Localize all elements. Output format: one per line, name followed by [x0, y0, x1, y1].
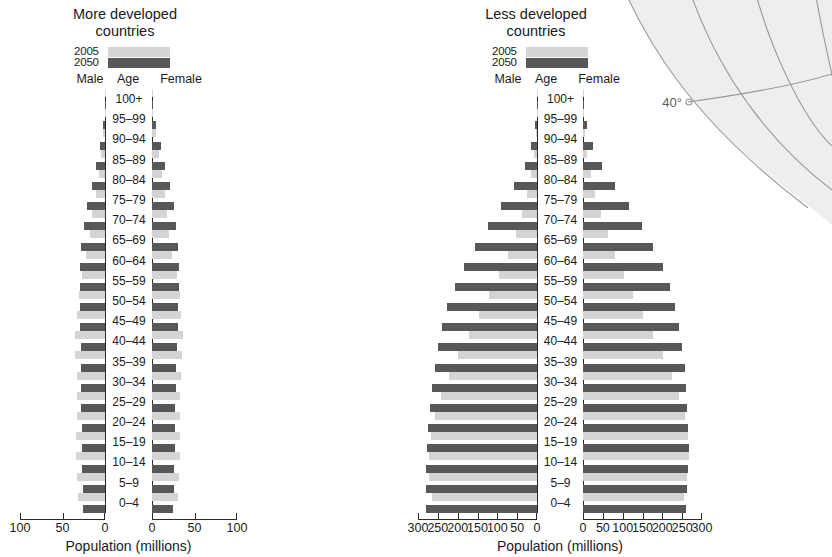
x-axis-tick-label: 200	[652, 521, 673, 535]
pyramid-age-row: 10–14	[418, 452, 832, 472]
bar-female-2050	[152, 101, 153, 109]
female-bars	[583, 452, 832, 472]
x-axis-tick-label: 50	[188, 521, 202, 535]
bar-female-2005	[152, 190, 165, 198]
male-bars	[418, 271, 537, 291]
bar-male-2005	[79, 291, 105, 299]
bar-male-2050	[475, 243, 537, 251]
x-axis-tick-label: 300	[692, 521, 713, 535]
bar-male-2005	[516, 230, 537, 238]
bar-female-2050	[152, 323, 178, 331]
x-axis-tick	[497, 513, 498, 520]
x-axis-tick-label: 50	[510, 521, 524, 535]
bar-male-2050	[488, 222, 537, 230]
pyramid-age-row: 55–59	[0, 271, 250, 291]
bar-female-2005	[152, 473, 179, 481]
bar-female-2050	[152, 465, 174, 473]
age-group-label: 5–9	[538, 473, 583, 493]
bar-male-2005	[77, 372, 105, 380]
bar-male-2050	[103, 121, 105, 129]
pyramid-age-row: 70–74	[418, 210, 832, 230]
column-headers-more-developed: Male Age Female	[0, 72, 250, 89]
bar-female-2050	[152, 404, 175, 412]
male-bars	[0, 311, 105, 331]
female-bars	[152, 150, 250, 170]
bar-female-2005	[583, 392, 679, 400]
pyramid-age-row: 30–34	[0, 372, 250, 392]
bar-female-2005	[152, 210, 167, 218]
male-bars	[418, 432, 537, 452]
bar-male-2050	[96, 162, 105, 170]
female-bars	[583, 432, 832, 452]
pyramid-age-row: 65–69	[418, 230, 832, 250]
female-bars	[152, 392, 250, 412]
bar-female-2005	[583, 150, 587, 158]
x-axis-tick-label: 0	[534, 521, 541, 535]
pyramid-age-row: 5–9	[0, 473, 250, 493]
bar-female-2005	[583, 170, 591, 178]
bar-female-2050	[583, 444, 689, 452]
female-bars	[152, 412, 250, 432]
bar-female-2005	[583, 351, 663, 359]
female-bars	[583, 190, 832, 210]
bar-female-2005	[583, 331, 653, 339]
bar-female-2050	[583, 505, 686, 513]
age-group-label: 0–4	[538, 493, 583, 513]
male-bars	[0, 291, 105, 311]
male-bars	[418, 311, 537, 331]
bar-female-2005	[583, 251, 615, 259]
female-bars	[583, 251, 832, 271]
bar-female-2050	[583, 243, 653, 251]
female-bars	[583, 210, 832, 230]
x-axis-tick	[438, 513, 439, 520]
bar-female-2005	[583, 412, 685, 420]
bar-female-2050	[583, 222, 642, 230]
legend-more-developed: 2005 2050	[0, 46, 250, 72]
x-axis-title: Population (millions)	[20, 538, 237, 554]
legend-less-developed: 2005 2050	[418, 46, 654, 72]
female-bars	[152, 271, 250, 291]
female-bars	[583, 473, 832, 493]
male-bars	[0, 251, 105, 271]
age-group-label: 10–14	[538, 452, 583, 472]
bar-male-2005	[435, 412, 537, 420]
pyramid-age-row: 65–69	[0, 230, 250, 250]
bar-male-2050	[427, 444, 537, 452]
bar-male-2050	[442, 323, 537, 331]
age-group-label: 65–69	[538, 230, 583, 250]
male-bars	[418, 452, 537, 472]
x-axis-tick-label: 50	[596, 521, 610, 535]
pyramid-age-row: 60–64	[0, 251, 250, 271]
bar-male-2050	[447, 303, 537, 311]
age-group-label: 95–99	[538, 109, 583, 129]
bar-male-2005	[99, 170, 105, 178]
column-header-female: Female	[148, 72, 214, 87]
pyramid-age-row: 35–39	[418, 351, 832, 371]
male-bars	[418, 473, 537, 493]
bar-female-2050	[152, 505, 173, 513]
x-axis-tick	[517, 513, 518, 520]
age-group-label: 45–49	[538, 311, 583, 331]
age-group-label: 80–84	[538, 170, 583, 190]
bar-male-2005	[531, 170, 537, 178]
male-bars	[0, 230, 105, 250]
pyramid-age-row: 40–44	[0, 331, 250, 351]
bar-female-2050	[583, 364, 685, 372]
x-axis-tick-label: 200	[447, 521, 468, 535]
bar-female-2005	[152, 109, 153, 117]
bar-female-2005	[152, 311, 181, 319]
x-axis-tick-label: 100	[612, 521, 633, 535]
pyramid-age-row: 15–19	[418, 432, 832, 452]
pyramid-age-row: 75–79	[418, 190, 832, 210]
bar-female-2050	[583, 202, 629, 210]
pyramid-age-row: 45–49	[0, 311, 250, 331]
bar-female-2050	[152, 162, 165, 170]
bar-female-2050	[152, 142, 161, 150]
female-bars	[152, 210, 250, 230]
bar-female-2050	[583, 142, 593, 150]
bar-male-2050	[430, 404, 537, 412]
bar-female-2050	[152, 444, 175, 452]
bar-male-2050	[100, 142, 105, 150]
pyramid-age-row: 60–64	[418, 251, 832, 271]
bar-male-2005	[77, 412, 105, 420]
